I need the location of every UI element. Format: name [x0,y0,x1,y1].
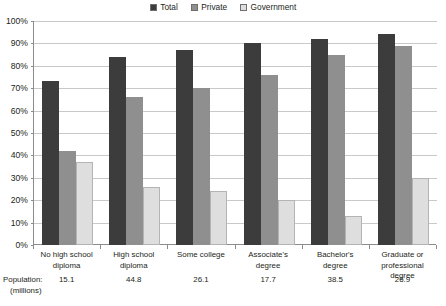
population-value: 26.9 [369,275,436,286]
bar-groups [34,21,437,245]
x-tick-mark [33,245,34,249]
population-values-row: 15.144.826.117.738.526.9 [33,275,436,286]
x-tick-mark [302,245,303,249]
bar-private [261,75,278,245]
bar-group [236,21,303,245]
plot-area [33,21,436,245]
bar-total [311,39,328,245]
bar-group [168,21,235,245]
y-axis-tick-label: 100% [0,17,28,26]
legend-swatch-private [191,4,198,11]
bar-government [76,162,93,245]
y-axis-tick-label: 20% [0,196,28,205]
category-label-line: diploma [34,261,99,272]
bar-total [244,43,261,245]
y-axis-tick-label: 30% [0,174,28,183]
x-tick-mark [100,245,101,249]
bar-government [210,191,227,245]
population-caption-line2: (millions) [3,286,65,297]
bar-private [126,97,143,245]
legend-swatch-government [240,4,247,11]
bar-government [412,178,429,245]
legend-label-government: Government [251,3,297,11]
category-label-line: diploma [101,261,166,272]
legend-label-private: Private [201,3,227,11]
bar-group [303,21,370,245]
bar-government [143,187,160,245]
category-label-line: No high school [34,250,99,261]
bar-group [101,21,168,245]
bar-group [34,21,101,245]
category-label-line: degree [303,261,368,272]
bar-total [109,57,126,245]
chart-legend: Total Private Government [0,3,446,11]
chart-container: Total Private Government 0%10%20%30%40%5… [0,0,446,306]
bar-government [278,200,295,245]
category-label-line: Associate's [236,250,301,261]
bar-private [193,88,210,245]
y-axis-tick-label: 0% [0,241,28,250]
legend-swatch-total [150,4,157,11]
x-axis-ticks [33,245,436,249]
y-axis-tick-label: 90% [0,39,28,48]
y-axis-tick-label: 10% [0,218,28,227]
bar-private [395,46,412,245]
category-label-line: High school [101,250,166,261]
population-value: 44.8 [100,275,167,286]
category-label-line: degree [236,261,301,272]
bar-private [59,151,76,245]
population-value: 17.7 [235,275,302,286]
category-label-line: Some college [168,250,233,261]
category-label-line: Graduate or [370,250,435,261]
x-tick-mark [167,245,168,249]
bar-total [176,50,193,245]
bar-total [378,34,395,245]
y-axis-tick-label: 70% [0,84,28,93]
y-axis-tick-label: 80% [0,62,28,71]
bar-group [370,21,437,245]
x-tick-mark [436,245,437,249]
population-value: 38.5 [302,275,369,286]
y-axis-tick-label: 60% [0,106,28,115]
population-value: 15.1 [33,275,100,286]
bar-government [345,216,362,245]
legend-label-total: Total [160,3,178,11]
x-tick-mark [235,245,236,249]
category-label-line: Bachelor's [303,250,368,261]
legend-entry-private: Private [191,3,227,11]
population-value: 26.1 [167,275,234,286]
x-tick-mark [369,245,370,249]
bar-private [328,55,345,245]
y-axis-tick-label: 50% [0,129,28,138]
y-axis-tick-label: 40% [0,151,28,160]
bar-total [42,81,59,245]
legend-entry-total: Total [150,3,178,11]
legend-entry-government: Government [240,3,296,11]
